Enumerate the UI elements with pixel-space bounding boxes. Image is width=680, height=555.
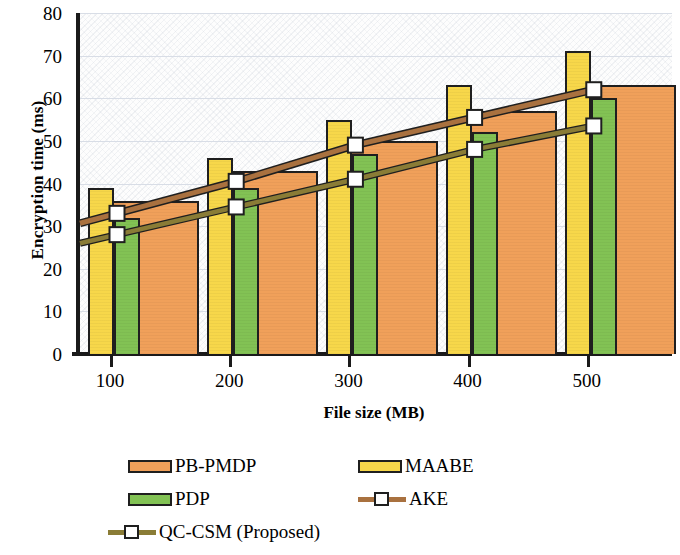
- x-tick-mark: [587, 356, 590, 367]
- x-tick-label: 100: [96, 370, 125, 392]
- line-ake: [80, 90, 594, 224]
- marker-ake: [110, 206, 125, 221]
- marker-ake: [467, 110, 482, 125]
- x-tick-mark: [110, 356, 113, 367]
- y-tick-label: 80: [43, 4, 62, 23]
- marker-ake: [348, 138, 363, 153]
- y-tick-label: 70: [43, 46, 62, 65]
- legend-line-marker-icon: [358, 491, 406, 507]
- legend-item-pdp[interactable]: PDP: [128, 488, 210, 510]
- y-axis-tick-labels: 01020304050607080: [0, 0, 72, 380]
- y-tick-label: 0: [53, 345, 63, 364]
- x-tick-label: 400: [453, 370, 482, 392]
- plot-area: [76, 13, 672, 354]
- x-tick-label: 500: [573, 370, 602, 392]
- line-series-overlay: [80, 13, 676, 354]
- x-tick-mark: [468, 356, 471, 367]
- legend-item-qc-csm-proposed[interactable]: QC-CSM (Proposed): [108, 521, 320, 543]
- marker-ake: [229, 174, 244, 189]
- y-tick-label: 10: [43, 302, 62, 321]
- marker-qc-csm-proposed-: [586, 118, 601, 133]
- legend-label: MAABE: [405, 455, 474, 477]
- legend-square-marker: [124, 525, 139, 539]
- marker-qc-csm-proposed-: [229, 199, 244, 214]
- y-tick-label: 20: [43, 259, 62, 278]
- legend-label: QC-CSM (Proposed): [159, 521, 320, 543]
- legend-swatch-icon: [358, 460, 402, 473]
- y-tick-label: 60: [43, 89, 62, 108]
- legend-swatch-icon: [128, 460, 172, 473]
- y-tick-label: 40: [43, 174, 62, 193]
- marker-qc-csm-proposed-: [110, 227, 125, 242]
- chart-figure: Encryption time (ms) 01020304050607080 1…: [0, 0, 680, 555]
- legend-square-marker: [374, 492, 389, 506]
- y-tick-label: 50: [43, 131, 62, 150]
- x-tick-label: 300: [334, 370, 363, 392]
- legend-item-ake[interactable]: AKE: [358, 488, 448, 510]
- marker-ake: [586, 82, 601, 97]
- marker-qc-csm-proposed-: [467, 142, 482, 157]
- x-tick-mark: [348, 356, 351, 367]
- x-tick-mark: [229, 356, 232, 367]
- legend-label: AKE: [409, 488, 448, 510]
- legend-label: PB-PMDP: [175, 455, 256, 477]
- legend-label: PDP: [175, 488, 210, 510]
- x-axis-title: File size (MB): [76, 403, 672, 423]
- y-tick-label: 30: [43, 217, 62, 236]
- marker-qc-csm-proposed-: [348, 172, 363, 187]
- legend-item-maabe[interactable]: MAABE: [358, 455, 474, 477]
- legend-line-marker-icon: [108, 524, 156, 540]
- legend-item-pb-pmdp[interactable]: PB-PMDP: [128, 455, 256, 477]
- x-axis-tick-labels: 100200300400500: [76, 370, 672, 400]
- legend-swatch-icon: [128, 493, 172, 506]
- x-tick-label: 200: [215, 370, 244, 392]
- plot-inner: [80, 13, 672, 354]
- chart-legend: PB-PMDPMAABEPDPAKEQC-CSM (Proposed): [0, 450, 680, 555]
